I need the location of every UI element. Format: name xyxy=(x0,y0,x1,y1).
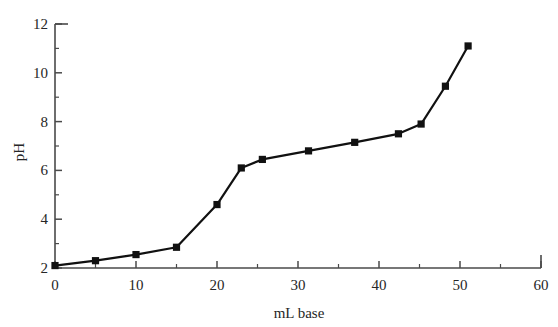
x-tick-label: 50 xyxy=(453,277,468,293)
data-point-marker xyxy=(305,147,312,154)
data-point-marker xyxy=(213,201,220,208)
data-point-marker xyxy=(418,120,425,127)
axes-group xyxy=(55,24,541,268)
series-line xyxy=(55,46,468,266)
data-point-marker xyxy=(395,130,402,137)
x-tick-label: 20 xyxy=(210,277,225,293)
data-point-marker xyxy=(173,244,180,251)
data-series-group xyxy=(51,42,471,269)
y-tick-label: 2 xyxy=(41,260,49,276)
data-point-marker xyxy=(238,164,245,171)
x-tick-label: 40 xyxy=(372,277,387,293)
ticks-group xyxy=(55,24,541,268)
y-axis-title: pH xyxy=(11,143,27,162)
data-point-marker xyxy=(259,156,266,163)
cropped-title-remnant xyxy=(0,0,558,8)
x-tick-label: 30 xyxy=(291,277,306,293)
x-tick-label: 0 xyxy=(51,277,59,293)
data-point-marker xyxy=(51,262,58,269)
data-point-marker xyxy=(465,42,472,49)
y-tick-label: 6 xyxy=(41,162,49,178)
titration-curve-chart: 246810120102030405060 mL base pH xyxy=(0,0,558,327)
chart-canvas: 246810120102030405060 mL base pH xyxy=(0,0,558,327)
y-tick-label: 12 xyxy=(33,16,48,32)
y-tick-label: 8 xyxy=(41,114,49,130)
data-point-marker xyxy=(442,83,449,90)
x-tick-label: 60 xyxy=(534,277,549,293)
y-tick-label: 10 xyxy=(33,65,48,81)
x-tick-label: 10 xyxy=(129,277,144,293)
x-axis-title: mL base xyxy=(274,305,325,321)
data-point-marker xyxy=(351,139,358,146)
y-tick-label: 4 xyxy=(41,211,49,227)
data-point-marker xyxy=(132,251,139,258)
data-point-marker xyxy=(92,257,99,264)
